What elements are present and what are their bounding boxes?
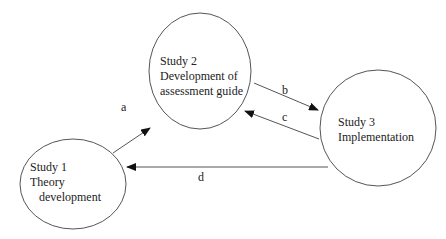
node-study-3-line-1: Study 3 [338,115,375,129]
node-study-2-line-2: Development of [160,69,238,83]
node-study-2-line-1: Study 2 [160,54,197,68]
node-study-3-line-2: Implementation [338,130,414,144]
edge-c: c [245,110,319,139]
node-study-1-line-3: development [39,190,102,204]
edge-d: d [127,167,328,184]
node-study-2: Study 2 Development of assessment guide [149,13,251,129]
node-study-1-line-1: Study 1 [30,160,67,174]
diagram-canvas: Study 1 Theory development Study 2 Devel… [0,0,446,239]
edge-c-label: c [282,110,287,124]
node-study-2-line-3: assessment guide [160,84,243,98]
node-study-1-line-2: Theory [30,175,65,189]
edge-b: b [254,83,318,110]
edge-b-label: b [282,83,288,97]
edge-d-label: d [198,170,204,184]
edge-a: a [113,100,150,153]
edge-a-label: a [121,100,127,114]
node-study-1: Study 1 Theory development [20,139,126,229]
node-study-3: Study 3 Implementation [320,70,436,186]
edge-a-arrow [113,128,150,153]
